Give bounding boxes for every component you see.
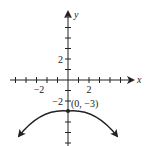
y-tick-label-2: 2 [58,54,63,65]
y-axis-label: y [73,9,79,20]
x-axis-label: x [136,74,142,85]
y-tick-label-neg2: −2 [52,96,63,107]
parabola-curve [68,111,117,136]
x-tick-label-neg2: −2 [34,84,45,95]
vertex-point [66,109,70,113]
graph: −2 2 2 −2 x y (0, −3) [0,0,153,146]
vertex-label: (0, −3) [71,98,98,110]
x-tick-label-2: 2 [87,84,92,95]
parabola-curve-left [19,111,68,136]
